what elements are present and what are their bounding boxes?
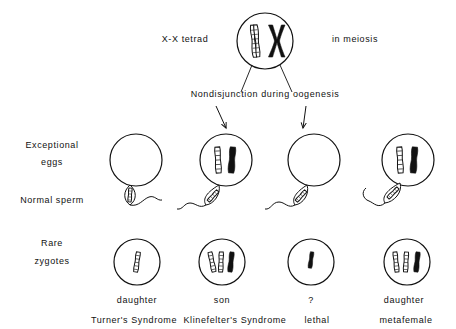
diagram-canvas: X-X tetrad in meiosis Nondisjunction dur… xyxy=(0,0,456,329)
sperm-cell-col2 xyxy=(177,185,219,209)
column-4 xyxy=(363,134,434,285)
sperm-cell-col3 xyxy=(265,185,308,209)
column-1 xyxy=(110,134,162,285)
egg-cell-col3 xyxy=(288,134,340,186)
zygote-cell-col1 xyxy=(114,239,160,285)
egg-chromosome-open-col2 xyxy=(214,147,221,173)
zygote-cell-col4 xyxy=(384,239,430,285)
egg-chromosome-open-col4 xyxy=(396,147,403,173)
nondisjunction-arrows xyxy=(216,106,306,128)
egg-cell-col2 xyxy=(200,134,252,186)
sperm-chromosome-col1 xyxy=(128,188,133,202)
sperm-cell-col4 xyxy=(363,183,400,206)
egg-cell-col1 xyxy=(110,134,162,186)
x-x-tetrad-cell xyxy=(237,13,293,92)
zygote-cell-col3 xyxy=(288,239,334,285)
sperm-cell-col1 xyxy=(125,185,162,205)
zygote-chromosome-2-col2 xyxy=(218,252,224,272)
egg-cell-col4 xyxy=(382,134,434,186)
zygote-chromosome-2-col4 xyxy=(403,252,409,272)
zygote-cell-col2 xyxy=(199,239,245,285)
column-2 xyxy=(177,134,252,285)
column-3 xyxy=(265,134,340,285)
